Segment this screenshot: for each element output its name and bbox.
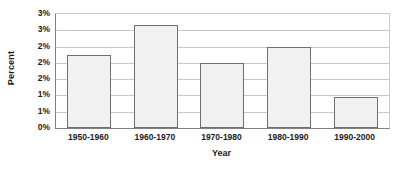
y-axis-tick-label: 1% — [38, 90, 50, 99]
x-axis-tick-labels: 1950-19601960-19701970-19801980-19901990… — [55, 130, 388, 146]
x-axis-tick-label: 1990-2000 — [321, 130, 388, 146]
bar-slot — [322, 14, 389, 128]
bar[interactable] — [134, 25, 178, 128]
y-axis-title: Percent — [0, 0, 22, 135]
y-axis-tick-label: 0% — [38, 123, 50, 132]
y-axis-tick-labels: 3%3%2%2%2%1%1%0% — [22, 13, 54, 127]
bar-series — [56, 14, 389, 128]
x-axis-title: Year — [55, 148, 388, 158]
bar-chart: Percent 3%3%2%2%2%1%1%0% 1950-19601960-1… — [0, 0, 400, 169]
x-axis-tick-label: 1950-1960 — [55, 130, 122, 146]
bar-slot — [123, 14, 190, 128]
y-axis-tick-label: 1% — [38, 106, 50, 115]
bar-slot — [56, 14, 123, 128]
plot-area — [55, 13, 390, 129]
x-axis-tick-label: 1970-1980 — [188, 130, 255, 146]
y-axis-title-label: Percent — [6, 50, 16, 84]
bar-slot — [189, 14, 256, 128]
y-axis-tick-label: 3% — [38, 25, 50, 34]
bar[interactable] — [200, 63, 244, 128]
x-axis-tick-label: 1960-1970 — [122, 130, 189, 146]
bar[interactable] — [67, 55, 111, 128]
bar[interactable] — [334, 97, 378, 128]
y-axis-tick-label: 2% — [38, 74, 50, 83]
y-axis-tick-label: 2% — [38, 58, 50, 67]
x-axis-tick-label: 1980-1990 — [255, 130, 322, 146]
y-axis-tick-label: 2% — [38, 41, 50, 50]
y-axis-tick-label: 3% — [38, 9, 50, 18]
bar[interactable] — [267, 47, 311, 128]
bar-slot — [256, 14, 323, 128]
